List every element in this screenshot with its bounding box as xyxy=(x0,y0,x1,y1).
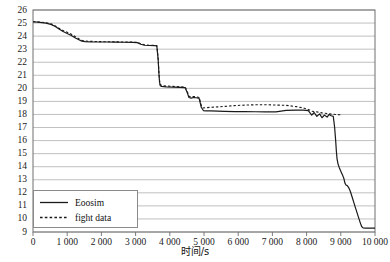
legend-label-1: fight data xyxy=(75,213,111,223)
legend: Eoosim fight data xyxy=(33,190,138,228)
y-tick-label: 11 xyxy=(3,200,27,210)
y-tick-label: 15 xyxy=(3,148,27,158)
legend-item-0: Eoosim xyxy=(39,195,132,210)
y-tick-label: 10 xyxy=(3,213,27,223)
legend-label-0: Eoosim xyxy=(75,198,104,208)
y-tick-label: 9 xyxy=(3,227,27,237)
y-tick-label: 23 xyxy=(3,44,27,54)
y-tick-label: 16 xyxy=(3,135,27,145)
y-tick-label: 26 xyxy=(3,5,27,15)
y-tick-label: 12 xyxy=(3,187,27,197)
y-tick-label: 18 xyxy=(3,109,27,119)
line-chart: 91011121314151617181920212223242526 01 0… xyxy=(0,0,390,262)
y-tick-label: 20 xyxy=(3,83,27,93)
legend-item-1: fight data xyxy=(39,210,132,225)
x-axis-title: 时间/s xyxy=(0,243,390,258)
y-tick-label: 19 xyxy=(3,96,27,106)
x-tick-marks xyxy=(33,232,375,236)
legend-line-solid-icon xyxy=(39,198,69,207)
y-tick-label: 24 xyxy=(3,31,27,41)
y-tick-label: 25 xyxy=(3,18,27,28)
y-tick-label: 22 xyxy=(3,57,27,67)
y-tick-label: 17 xyxy=(3,122,27,132)
legend-line-dashed-icon xyxy=(39,213,69,222)
y-tick-label: 21 xyxy=(3,70,27,80)
y-tick-label: 14 xyxy=(3,161,27,171)
y-tick-label: 13 xyxy=(3,174,27,184)
